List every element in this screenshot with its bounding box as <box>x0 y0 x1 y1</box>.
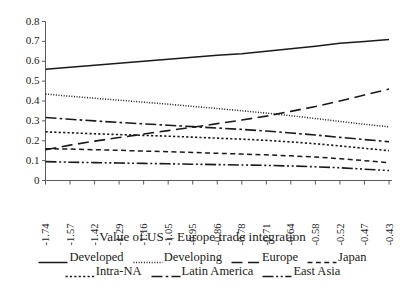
legend-line-sample-icon <box>262 267 292 276</box>
x-axis-title: Value of US – Europe trade integration <box>0 229 405 245</box>
y-axis-tick-label: 0.5 <box>26 74 40 86</box>
y-axis-tick-label: 0.2 <box>26 134 40 146</box>
series-line-east-asia <box>46 162 390 171</box>
y-axis-tick-label: 0.3 <box>26 114 40 126</box>
legend-item-label: Japan <box>338 250 366 265</box>
series-line-developed <box>46 39 390 69</box>
y-axis-tick-label: 0.6 <box>26 54 40 66</box>
legend-line-sample-icon <box>151 267 181 276</box>
y-axis-tick-label: 0.1 <box>26 154 40 166</box>
legend-line-sample-icon <box>133 253 163 262</box>
legend-item-japan[interactable]: Japan <box>307 250 366 265</box>
legend-item-label: Developed <box>69 250 123 265</box>
legend-item-label: Intra-NA <box>96 264 142 279</box>
legend-row-primary: DevelopedDevelopingEuropeJapan <box>0 250 405 264</box>
legend-item-label: Europe <box>262 250 298 265</box>
legend-item-intra-na[interactable]: Intra-NA <box>65 264 151 279</box>
legend-swatch-dotted <box>65 272 95 281</box>
series-line-japan <box>46 149 390 163</box>
y-axis-tick-label: 0.8 <box>26 15 40 27</box>
series-line-developing <box>46 94 390 127</box>
legend-item-label: Latin America <box>182 264 254 279</box>
legend-item-label: Developing <box>164 250 222 265</box>
y-axis-tick-label: 0.7 <box>26 34 40 46</box>
legend-line-sample-icon <box>38 253 68 262</box>
series-line-europe <box>46 89 390 150</box>
legend-line-sample-icon <box>231 253 261 262</box>
legend-item-latin-america[interactable]: Latin America <box>151 264 263 279</box>
legend-line-sample-icon <box>307 253 337 262</box>
chart-figure: 0.80.70.60.50.40.30.20.10-1.74-1.57-1.42… <box>0 0 405 294</box>
legend-item-europe[interactable]: Europe <box>231 250 307 265</box>
legend-swatch-dash-dot-dot <box>262 272 292 281</box>
legend-swatch-dash-dot <box>151 272 181 281</box>
legend-item-developing[interactable]: Developing <box>133 250 231 265</box>
legend-item-label: East Asia <box>293 264 340 279</box>
legend-line-sample-icon <box>65 267 95 276</box>
legend-item-developed[interactable]: Developed <box>38 250 132 265</box>
y-axis-tick-label: 0.4 <box>26 94 40 106</box>
chart-legend: DevelopedDevelopingEuropeJapan Intra-NAL… <box>0 250 405 278</box>
y-axis-tick-label: 0 <box>34 174 40 186</box>
legend-item-east-asia[interactable]: East Asia <box>262 264 340 279</box>
